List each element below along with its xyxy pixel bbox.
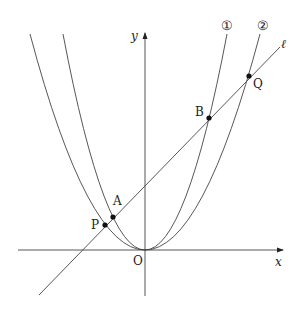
point-P-label: P: [91, 218, 99, 232]
coordinate-diagram: y x O P A B Q ℓ ① ②: [0, 0, 302, 314]
point-A: [110, 214, 115, 219]
point-Q: [246, 73, 251, 78]
parabola-2-label: ②: [257, 18, 269, 33]
point-A-label: A: [112, 194, 122, 208]
line-l-label: ℓ: [281, 37, 286, 51]
x-axis-label: x: [275, 255, 282, 269]
point-B-label: B: [195, 105, 204, 119]
point-P: [102, 222, 107, 227]
y-axis-label: y: [130, 29, 138, 43]
point-B: [206, 115, 211, 120]
origin-label: O: [133, 254, 143, 268]
point-Q-label: Q: [253, 77, 263, 91]
parabola-1-label: ①: [221, 18, 233, 33]
